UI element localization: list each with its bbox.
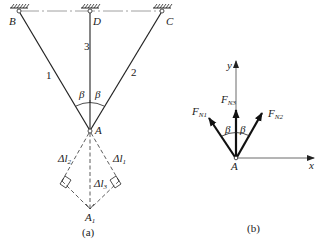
right-angle-left-icon bbox=[60, 176, 71, 188]
force-fn1-arrow bbox=[209, 118, 235, 157]
label-beta-right: β bbox=[94, 88, 101, 100]
support-c-icon bbox=[153, 4, 172, 13]
label-d: D bbox=[92, 15, 101, 27]
bar-1 bbox=[20, 13, 89, 129]
bar-2 bbox=[91, 13, 161, 129]
label-fn1: FN1 bbox=[191, 105, 207, 119]
figure-a: B D C 3 1 2 β β A Δl2 Δl1 Δl3 A1 (a) bbox=[9, 4, 174, 239]
perp-left-line bbox=[62, 181, 90, 209]
label-bar-3: 3 bbox=[84, 40, 90, 52]
label-bar-2: 2 bbox=[131, 66, 137, 78]
right-angle-right-icon bbox=[110, 176, 121, 188]
joint-a-icon bbox=[88, 129, 92, 133]
label-a: A bbox=[94, 124, 102, 136]
label-b: B bbox=[9, 15, 16, 27]
force-fn2-arrow bbox=[237, 113, 262, 157]
label-dl2: Δl2 bbox=[57, 152, 72, 166]
label-bar-1: 1 bbox=[46, 69, 52, 81]
figure-b: y x A FN3 FN1 FN2 β β (b) bbox=[191, 59, 314, 235]
label-dl1: Δl1 bbox=[112, 152, 126, 166]
label-beta-left-b: β bbox=[224, 123, 231, 135]
support-d-icon bbox=[81, 4, 100, 13]
caption-a: (a) bbox=[82, 226, 95, 239]
label-origin-a: A bbox=[230, 160, 238, 172]
label-fn2: FN2 bbox=[267, 107, 283, 121]
caption-b: (b) bbox=[247, 222, 260, 235]
support-b-icon bbox=[10, 4, 29, 13]
label-dl3: Δl3 bbox=[93, 177, 108, 191]
label-c: C bbox=[166, 15, 174, 27]
label-a1: A1 bbox=[84, 211, 95, 225]
label-beta-left: β bbox=[78, 88, 85, 100]
label-x-axis: x bbox=[308, 159, 314, 171]
label-fn3: FN3 bbox=[220, 93, 236, 107]
label-beta-right-b: β bbox=[239, 123, 246, 135]
label-y-axis: y bbox=[226, 59, 232, 71]
